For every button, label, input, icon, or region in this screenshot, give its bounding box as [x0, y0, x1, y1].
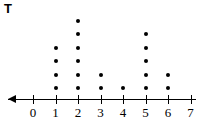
- data-dot: [54, 59, 58, 63]
- x-axis-tick: [168, 95, 169, 104]
- x-axis-tick: [101, 95, 102, 104]
- data-dot: [121, 86, 125, 90]
- x-axis-tick-label: 6: [160, 105, 176, 120]
- x-axis-tick-label: 3: [93, 105, 109, 120]
- x-axis-tick: [146, 95, 147, 104]
- data-dot: [54, 86, 58, 90]
- data-dot: [76, 32, 80, 36]
- data-dot: [76, 86, 80, 90]
- data-dot: [76, 46, 80, 50]
- x-axis-tick: [78, 95, 79, 104]
- x-axis-tick-label: 0: [25, 105, 41, 120]
- data-dot: [54, 73, 58, 77]
- x-axis-tick-label: 1: [48, 105, 64, 120]
- x-axis-tick-label: 5: [138, 105, 154, 120]
- data-dot: [76, 19, 80, 23]
- x-axis-tick: [123, 95, 124, 104]
- x-axis-tick-label: 4: [115, 105, 131, 120]
- data-dot: [76, 59, 80, 63]
- data-dot: [99, 86, 103, 90]
- x-axis-tick-label: 7: [183, 105, 197, 120]
- x-axis-tick: [191, 95, 192, 104]
- data-dot: [144, 86, 148, 90]
- data-dot: [166, 86, 170, 90]
- data-dot: [99, 73, 103, 77]
- x-axis-tick-label: 2: [70, 105, 86, 120]
- data-dot: [144, 59, 148, 63]
- page-title: T: [4, 2, 12, 16]
- data-dot: [76, 73, 80, 77]
- data-dot: [166, 73, 170, 77]
- data-dot: [54, 46, 58, 50]
- data-dot: [144, 32, 148, 36]
- data-dot: [144, 73, 148, 77]
- dot-plot-figure: T 01234567: [0, 0, 196, 123]
- data-dot: [144, 46, 148, 50]
- x-axis-tick: [56, 95, 57, 104]
- x-axis-tick: [33, 95, 34, 104]
